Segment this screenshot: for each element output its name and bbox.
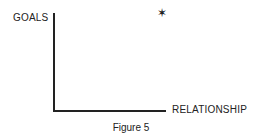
star-marker-icon: ✶ (157, 7, 167, 19)
y-axis-label: GOALS (13, 12, 48, 23)
figure-caption: Figure 5 (0, 122, 258, 133)
x-axis (53, 110, 166, 112)
y-axis (53, 13, 55, 112)
caption-text: Figure 5 (113, 122, 150, 133)
x-axis-label: RELATIONSHIP (172, 104, 247, 115)
